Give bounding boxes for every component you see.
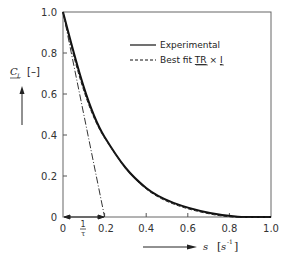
y-tick-06: 0.6 — [41, 89, 57, 100]
x-tick-02: 0.2 — [98, 223, 114, 234]
x-tick-08: 0.8 — [221, 223, 237, 234]
chart: 0 0.2 0.4 0.6 0.8 1.0 0 0.2 0.4 0.6 0.8 … — [0, 0, 287, 263]
x-tick-06: 0.6 — [180, 223, 196, 234]
svg-text:-1: -1 — [227, 238, 233, 245]
y-tick-02: 0.2 — [41, 171, 57, 182]
svg-text:τ: τ — [81, 230, 85, 238]
tangent-line — [63, 12, 105, 217]
x-tick-labels: 0 0.2 0.4 0.6 0.8 1.0 — [60, 223, 279, 234]
x-tick-04: 0.4 — [138, 223, 154, 234]
y-tick-10: 1.0 — [41, 7, 57, 18]
svg-text:1: 1 — [80, 220, 85, 229]
y-tick-08: 0.8 — [41, 48, 57, 59]
tau-span-arrow — [64, 215, 104, 219]
x-axis-label: s [ s -1 ] — [143, 238, 238, 253]
svg-text:s: s — [203, 241, 208, 252]
legend: Experimental Best fit TR × I — [130, 40, 224, 65]
y-tick-labels: 0 0.2 0.4 0.6 0.8 1.0 — [41, 7, 57, 223]
legend-best-fit: Best fit TR × I — [160, 55, 223, 65]
x-tick-0: 0 — [60, 223, 66, 234]
y-tick-0: 0 — [51, 212, 57, 223]
svg-text:[–]: [–] — [27, 66, 40, 77]
y-axis-ticks — [63, 53, 67, 176]
tau-annotation: 1 τ — [80, 220, 86, 238]
legend-experimental: Experimental — [160, 40, 220, 50]
svg-text:s: s — [221, 241, 226, 252]
y-axis-label: C L [–] — [10, 66, 40, 125]
svg-text:]: ] — [234, 240, 238, 253]
x-tick-10: 1.0 — [263, 223, 279, 234]
y-tick-04: 0.4 — [41, 130, 57, 141]
